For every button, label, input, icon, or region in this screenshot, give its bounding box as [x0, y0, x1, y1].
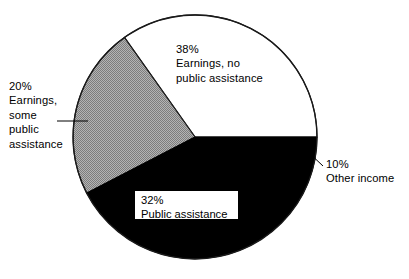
slice-label-line-2: Earnings,: [9, 93, 63, 107]
pie-chart-figure: 38% Earnings, no public assistance 20% E…: [0, 0, 409, 279]
slice-label-line-5: assistance: [9, 137, 63, 151]
slice-label-earnings-no-public-assistance: 38% Earnings, no public assistance: [176, 42, 263, 85]
slice-percent-earnings-no-public-assistance: 38%: [176, 42, 263, 56]
slice-label-line-2: Public assistance: [141, 208, 238, 222]
slice-label-public-assistance: 32% Public assistance: [134, 190, 239, 220]
slice-percent-public-assistance: 32%: [141, 194, 238, 208]
slice-label-line-2: Other income: [326, 171, 394, 185]
slice-percent-other-income: 10%: [326, 157, 394, 171]
slice-label-line-2: Earnings, no: [176, 56, 263, 70]
slice-label-other-income: 10% Other income: [326, 157, 394, 186]
slice-label-line-4: public: [9, 122, 63, 136]
slice-label-line-3: public assistance: [176, 71, 263, 85]
slice-label-line-3: some: [9, 108, 63, 122]
slice-percent-earnings-some-public-assistance: 20%: [9, 79, 63, 93]
slice-label-earnings-some-public-assistance: 20% Earnings, some public assistance: [9, 79, 63, 151]
